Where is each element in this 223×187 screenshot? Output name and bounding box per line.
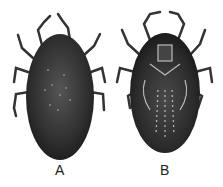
tick-a-body	[26, 34, 94, 160]
tick-illustration	[0, 0, 223, 187]
panel-label-a: A	[55, 162, 64, 178]
panel-label-b: B	[160, 162, 169, 178]
